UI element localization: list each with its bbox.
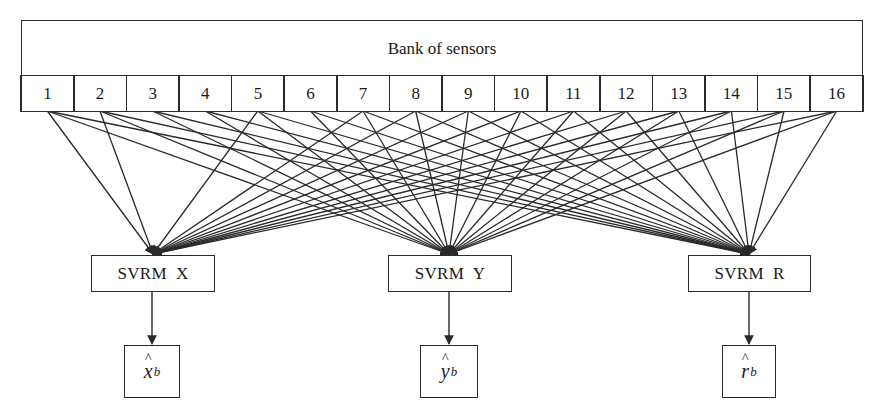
output-x-hat-b: ^ x b <box>124 345 180 398</box>
wire-sensor-1-to-svrm-x <box>47 111 153 254</box>
hat-accent-icon: ^ <box>742 351 749 367</box>
output-y-subscript: b <box>451 364 458 380</box>
hat-accent-icon: ^ <box>442 351 449 367</box>
sensor-15: 15 <box>757 75 811 112</box>
sensor-bank: Bank of sensors 1 2 3 4 5 6 7 8 9 10 11 … <box>21 20 863 112</box>
sensor-bank-title: Bank of sensors <box>22 21 862 76</box>
sensor-7: 7 <box>336 75 390 112</box>
output-y-hat-b: ^ y b <box>420 345 478 398</box>
wire-sensor-6-to-svrm-r <box>310 111 749 254</box>
hat-accent-icon: ^ <box>145 351 152 367</box>
wire-sensor-4-to-svrm-r <box>205 111 749 254</box>
output-r-subscript: b <box>750 364 757 380</box>
sensor-16: 16 <box>809 75 863 112</box>
svrm-x-block: SVRM X <box>91 255 215 292</box>
sensor-11: 11 <box>546 75 600 112</box>
sensor-12: 12 <box>599 75 653 112</box>
output-x-symbol: ^ x <box>144 360 153 383</box>
output-x-subscript: b <box>154 364 161 380</box>
wire-sensor-9-to-svrm-r <box>468 111 749 254</box>
output-r-hat-b: ^ r b <box>722 345 776 398</box>
wire-sensor-15-to-svrm-r <box>749 111 784 254</box>
sensor-3: 3 <box>126 75 180 112</box>
svrm-r-block: SVRM R <box>688 255 811 292</box>
wire-sensor-5-to-svrm-r <box>258 111 749 254</box>
sensor-6: 6 <box>283 75 337 112</box>
svrm-y-block: SVRM Y <box>388 255 512 292</box>
sensor-row: 1 2 3 4 5 6 7 8 9 10 11 12 13 14 15 16 <box>20 75 863 112</box>
sensor-svrm-diagram: Bank of sensors 1 2 3 4 5 6 7 8 9 10 11 … <box>0 0 884 418</box>
sensor-13: 13 <box>652 75 706 112</box>
sensor-9: 9 <box>441 75 495 112</box>
wire-sensor-14-to-svrm-r <box>731 111 749 254</box>
sensor-10: 10 <box>494 75 548 112</box>
sensor-14: 14 <box>704 75 758 112</box>
output-r-symbol: ^ r <box>741 360 749 383</box>
sensor-1: 1 <box>20 75 74 112</box>
sensor-4: 4 <box>178 75 232 112</box>
sensor-8: 8 <box>389 75 443 112</box>
sensor-2: 2 <box>73 75 127 112</box>
wire-sensor-2-to-svrm-r <box>100 111 749 254</box>
output-y-symbol: ^ y <box>441 360 450 383</box>
wire-sensor-16-to-svrm-r <box>749 111 837 254</box>
sensor-5: 5 <box>231 75 285 112</box>
